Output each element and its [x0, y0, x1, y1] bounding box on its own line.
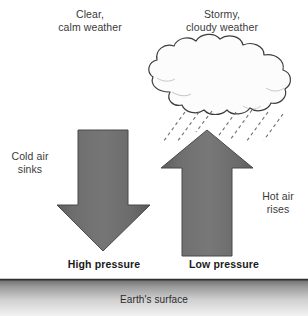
label-hot-air-rises: Hot air rises — [250, 190, 306, 215]
label-cold-air-sinks: Cold air sinks — [2, 150, 58, 175]
label-clear-calm-weather: Clear, calm weather — [30, 8, 150, 33]
rain-streaks — [163, 110, 283, 142]
cold-air-down-arrow — [57, 130, 150, 251]
label-high-pressure: High pressure — [48, 258, 160, 271]
weather-pressure-diagram: Clear, calm weather Stormy, cloudy weath… — [0, 0, 308, 316]
label-low-pressure: Low pressure — [168, 258, 280, 271]
label-earths-surface: Earth's surface — [0, 294, 308, 307]
label-stormy-cloudy-weather: Stormy, cloudy weather — [162, 8, 282, 33]
storm-cloud — [149, 34, 291, 114]
hot-air-up-arrow — [161, 130, 253, 256]
